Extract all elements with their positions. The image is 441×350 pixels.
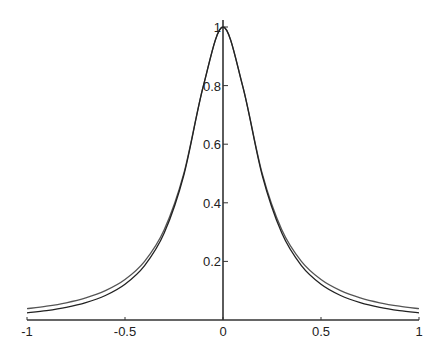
- y-tick-label: 0.6: [203, 137, 221, 152]
- y-tick-label: 0.2: [203, 254, 221, 269]
- x-tick-label: 1: [415, 324, 422, 339]
- x-tick-label: 0.5: [312, 324, 330, 339]
- line-chart: -1-0.500.510.20.40.60.81: [0, 0, 441, 350]
- tick-labels: -1-0.500.510.20.40.60.81: [21, 20, 422, 339]
- axes: [27, 20, 419, 320]
- x-tick-label: 0: [219, 324, 226, 339]
- y-tick-label: 0.8: [203, 79, 221, 94]
- y-tick-label: 0.4: [203, 196, 221, 211]
- x-tick-label: -0.5: [114, 324, 136, 339]
- y-tick-label: 1: [214, 20, 221, 35]
- x-tick-label: -1: [21, 324, 33, 339]
